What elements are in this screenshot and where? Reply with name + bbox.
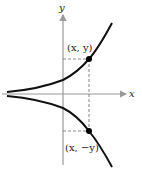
x-axis-label: x xyxy=(129,88,135,99)
lower-curve xyxy=(7,96,112,167)
y-axis-label: y xyxy=(58,2,65,13)
point-upper-label: (x, y) xyxy=(67,42,93,53)
point-lower-label: (x, −y) xyxy=(65,142,99,153)
upper-curve xyxy=(7,23,112,92)
point-lower xyxy=(86,128,92,134)
symmetry-graph: y x (x, y) (x, −y) xyxy=(0,0,142,174)
point-upper xyxy=(86,56,92,62)
